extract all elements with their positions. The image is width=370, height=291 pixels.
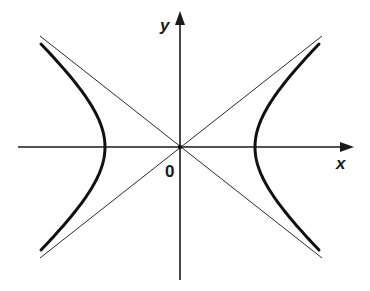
x-axis-label: x [335,154,347,173]
hyperbola-diagram: y x 0 [0,0,370,291]
y-axis-label: y [159,16,171,35]
y-axis-arrowhead-icon [175,11,185,25]
origin-point [178,145,182,149]
origin-label: 0 [165,162,174,181]
x-axis-arrowhead-icon [340,142,354,152]
